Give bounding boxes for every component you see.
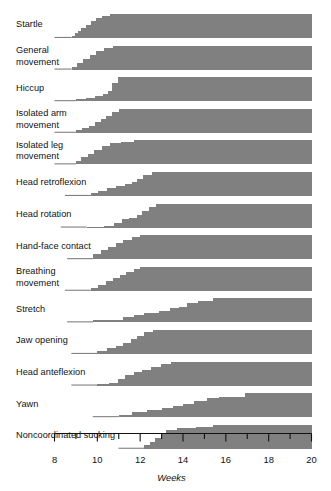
x-axis-title: Weeks xyxy=(0,472,331,483)
x-tick-label: 8 xyxy=(52,454,57,465)
x-axis: 8101214161820 Weeks xyxy=(0,432,331,491)
step-area-svg xyxy=(0,0,331,491)
x-tick-label: 20 xyxy=(306,454,316,465)
x-tick-label: 12 xyxy=(135,454,145,465)
chart-rows: StartleGeneral movementHiccupIsolated ar… xyxy=(0,0,331,430)
fetal-movement-chart: StartleGeneral movementHiccupIsolated ar… xyxy=(0,0,331,491)
x-tick-label: 18 xyxy=(263,454,273,465)
axis-line-and-ticks xyxy=(0,432,331,454)
x-tick-label: 16 xyxy=(221,454,231,465)
x-tick-label: 14 xyxy=(178,454,188,465)
x-tick-label: 10 xyxy=(92,454,102,465)
